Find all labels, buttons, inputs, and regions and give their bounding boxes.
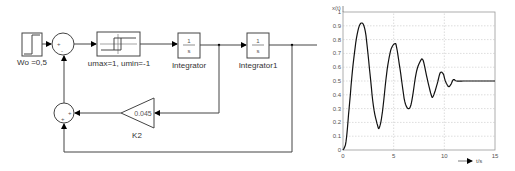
integrator1-denominator: s	[257, 48, 260, 54]
y-tick-label: 0.8	[333, 37, 342, 43]
block-diagram-canvas: Wo =0,5 + - umax=1, umin=-1 1 s Integrat…	[0, 0, 515, 171]
sum2-sign-plus-right: +	[68, 110, 72, 116]
y-tick-label: 0.1	[333, 133, 342, 139]
sum1-sign-plus: +	[57, 41, 61, 47]
relay-label: umax=1, umin=-1	[88, 59, 151, 68]
gain-label: K2	[132, 131, 142, 140]
response-chart: 00.10.20.30.40.50.60.70.80.91 051015 x(t…	[332, 5, 499, 164]
integrator-denominator: s	[188, 48, 191, 54]
y-tick-label: 0.7	[333, 50, 342, 56]
step-label: Wo =0,5	[17, 58, 47, 67]
y-tick-label: 0.9	[333, 23, 342, 29]
y-axis-label: x(t)	[332, 5, 341, 11]
sum1-sign-minus: -	[61, 48, 63, 54]
x-axis-label: t/s	[476, 158, 482, 164]
y-tick-label: 0.6	[333, 64, 342, 70]
gain-block[interactable]: 0.045 K2	[121, 98, 154, 140]
y-tick-label: 0.5	[333, 78, 342, 84]
integrator-block[interactable]: 1 s Integrator	[172, 33, 207, 70]
sum1-block[interactable]: + -	[52, 33, 74, 55]
integrator-label: Integrator	[172, 61, 207, 70]
y-tick-label: 0.2	[333, 119, 342, 125]
integrator1-block[interactable]: 1 s Integrator1	[239, 33, 278, 70]
x-tick-label: 10	[441, 153, 448, 159]
x-tick-label: 0	[341, 153, 345, 159]
gain-value: 0.045	[134, 110, 152, 117]
y-tick-labels: 00.10.20.30.40.50.60.70.80.91	[333, 9, 342, 153]
x-tick-label: 5	[392, 153, 396, 159]
relay-block[interactable]: umax=1, umin=-1	[88, 32, 151, 68]
integrator1-label: Integrator1	[239, 61, 278, 70]
y-tick-label: 0.3	[333, 106, 342, 112]
sum2-sign-plus-bottom: +	[61, 116, 65, 122]
step-block[interactable]: Wo =0,5	[17, 33, 47, 67]
sum2-block[interactable]: + +	[54, 103, 74, 123]
y-tick-label: 0.4	[333, 92, 342, 98]
x-tick-label: 15	[492, 153, 499, 159]
